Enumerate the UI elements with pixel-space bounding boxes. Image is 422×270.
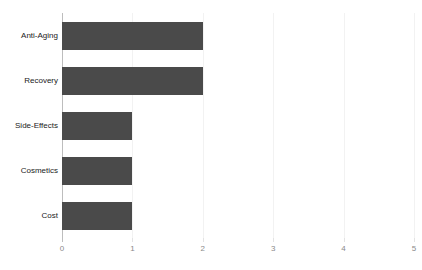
gridline-3: [273, 13, 274, 238]
tick-mark-0: [62, 238, 63, 242]
gridline-2: [203, 13, 204, 238]
tick-mark-1: [132, 238, 133, 242]
bar: [62, 157, 132, 185]
plot-area: [62, 13, 414, 238]
category-label: Anti-Aging: [2, 31, 58, 40]
gridline-5: [414, 13, 415, 238]
tick-mark-2: [203, 238, 204, 242]
tick-mark-4: [344, 238, 345, 242]
tick-label-5: 5: [412, 244, 416, 253]
bar: [62, 112, 132, 140]
tick-label-3: 3: [271, 244, 275, 253]
tick-label-4: 4: [341, 244, 345, 253]
category-label: Cost: [2, 211, 58, 220]
gridline-4: [344, 13, 345, 238]
category-label: Side-Effects: [2, 121, 58, 130]
tick-mark-3: [273, 238, 274, 242]
category-label: Recovery: [2, 76, 58, 85]
category-label: Cosmetics: [2, 166, 58, 175]
chart-title-cropped: —— ———: [3, 0, 63, 3]
tick-label-0: 0: [60, 244, 64, 253]
bar: [62, 22, 203, 50]
tick-label-1: 1: [130, 244, 134, 253]
bar: [62, 202, 132, 230]
bar: [62, 67, 203, 95]
tick-label-2: 2: [201, 244, 205, 253]
y-axis-category-labels: Anti-AgingRecoverySide-EffectsCosmeticsC…: [0, 13, 58, 238]
bar-chart: —— ——— Anti-AgingRecoverySide-EffectsCos…: [0, 0, 422, 270]
tick-mark-5: [414, 238, 415, 242]
